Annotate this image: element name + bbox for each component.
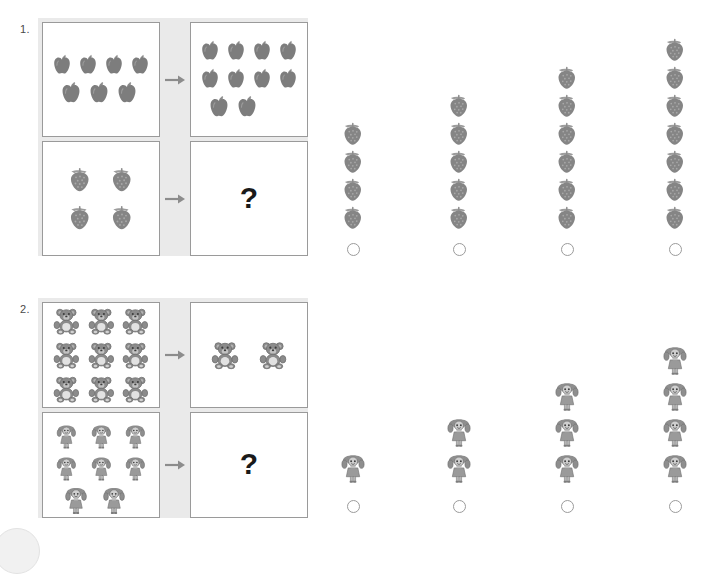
doll-icon	[53, 421, 80, 453]
option-stack-1c	[551, 63, 583, 231]
apple-icon	[234, 95, 260, 121]
icon-row	[49, 161, 153, 199]
doll-icon	[53, 453, 80, 485]
matrix-row-4: ?	[42, 412, 300, 518]
doll-icon	[659, 416, 691, 450]
strawberry-icon	[443, 119, 475, 149]
question-mark-2: ?	[191, 449, 307, 479]
strawberry-icon	[551, 119, 583, 149]
matrix-row-2: ?	[42, 141, 300, 256]
strawberry-icon	[659, 175, 691, 205]
strawberry-icon	[659, 63, 691, 93]
option-stack-2c	[551, 380, 583, 488]
doll-icon	[551, 452, 583, 486]
icon-row	[49, 338, 153, 372]
answer-options-2	[310, 298, 720, 513]
strawberry-icon	[659, 147, 691, 177]
icon-row	[49, 453, 153, 485]
apple-icon	[128, 53, 152, 79]
doll-icon	[88, 453, 115, 485]
strawberry-icon	[443, 175, 475, 205]
radio-button-2d[interactable]	[669, 500, 682, 513]
strawberry-icon	[659, 119, 691, 149]
strawberry-group-4	[43, 142, 159, 255]
icon-row	[197, 38, 301, 66]
apple-icon	[114, 81, 140, 107]
answer-option-2d[interactable]	[644, 344, 706, 513]
icon-row	[49, 485, 153, 517]
teddy-bear-icon	[120, 373, 151, 405]
apple-icon	[250, 67, 274, 93]
icon-row	[49, 421, 153, 453]
strawberry-icon	[551, 91, 583, 121]
strawberry-icon	[105, 164, 139, 196]
icon-row	[49, 52, 153, 80]
question-number-1: 1.	[20, 24, 30, 35]
strawberry-icon	[659, 91, 691, 121]
doll-group-8	[43, 413, 159, 517]
radio-button-1a[interactable]	[347, 243, 360, 256]
arrow-cell-4	[160, 458, 190, 472]
answer-option-1b[interactable]	[428, 91, 490, 256]
answer-option-2c[interactable]	[536, 380, 598, 513]
matrix-cell-a2	[42, 141, 160, 256]
answer-option-1d[interactable]	[644, 35, 706, 256]
apple-icon	[206, 95, 232, 121]
question-mark-1: ?	[191, 183, 307, 213]
icon-row	[197, 94, 301, 122]
apple-group-10	[191, 23, 307, 136]
radio-button-2c[interactable]	[561, 500, 574, 513]
doll-icon	[122, 421, 149, 453]
teddy-bear-icon	[209, 339, 241, 371]
strawberry-icon	[551, 203, 583, 233]
apple-icon	[224, 67, 248, 93]
strawberry-icon	[551, 147, 583, 177]
teddy-bear-icon	[51, 373, 82, 405]
apple-icon	[198, 67, 222, 93]
arrow-cell-1	[160, 73, 190, 87]
answer-option-1c[interactable]	[536, 63, 598, 256]
answer-option-2a[interactable]	[322, 452, 384, 513]
doll-icon	[443, 416, 475, 450]
doll-icon	[443, 452, 475, 486]
doll-icon	[551, 416, 583, 450]
arrow-right-icon	[164, 73, 186, 87]
doll-icon	[88, 421, 115, 453]
apple-icon	[76, 53, 100, 79]
matrix-row-1	[42, 22, 300, 137]
apple-icon	[58, 81, 84, 107]
answer-option-2b[interactable]	[428, 416, 490, 513]
radio-button-1b[interactable]	[453, 243, 466, 256]
radio-button-1c[interactable]	[561, 243, 574, 256]
doll-icon	[551, 380, 583, 414]
strawberry-icon	[63, 164, 97, 196]
strawberry-icon	[659, 203, 691, 233]
apple-icon	[250, 39, 274, 65]
icon-row	[49, 80, 153, 108]
teddy-bear-icon	[120, 339, 151, 371]
answer-option-1a[interactable]	[322, 119, 384, 256]
arrow-cell-3	[160, 348, 190, 362]
arrow-right-icon	[164, 348, 186, 362]
strawberry-icon	[337, 175, 369, 205]
teddy-bear-icon	[51, 305, 82, 337]
arrow-right-icon	[164, 458, 186, 472]
option-stack-1b	[443, 91, 475, 231]
doll-icon	[659, 344, 691, 378]
teddy-bear-group-2	[191, 303, 307, 407]
radio-button-2b[interactable]	[453, 500, 466, 513]
matrix-cell-b2-answer: ?	[190, 141, 308, 256]
matrix-cell-a1	[42, 22, 160, 137]
radio-button-2a[interactable]	[347, 500, 360, 513]
radio-button-1d[interactable]	[669, 243, 682, 256]
doll-icon	[61, 485, 91, 517]
strawberry-icon	[337, 203, 369, 233]
teddy-bear-icon	[86, 373, 117, 405]
icon-row	[49, 304, 153, 338]
teddy-bear-icon	[120, 305, 151, 337]
icon-row	[49, 372, 153, 406]
answer-options-1	[310, 18, 720, 256]
strawberry-icon	[443, 147, 475, 177]
option-stack-1d	[659, 35, 691, 231]
matrix-cell-d2-answer: ?	[190, 412, 308, 518]
